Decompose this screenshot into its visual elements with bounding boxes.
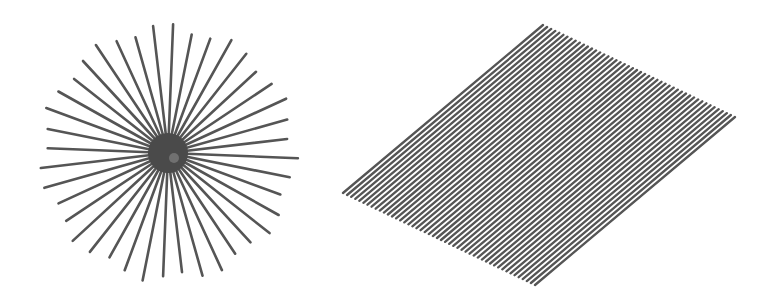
figure-canvas [0, 0, 776, 303]
radial-starburst [41, 24, 298, 280]
parallel-line-parallelogram [343, 25, 735, 285]
hub-circle [148, 133, 188, 173]
hub-highlight [169, 153, 179, 163]
